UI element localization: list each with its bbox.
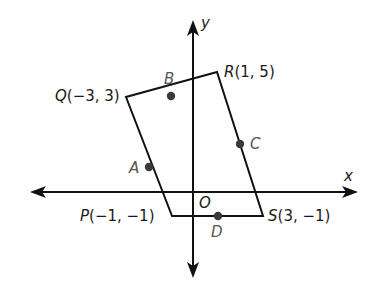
midpoint-b <box>167 92 175 100</box>
vertex-q-label: Q(−3, 3) <box>55 89 120 104</box>
midpoint-b-label: B <box>164 72 174 87</box>
vertex-p-label: P(−1, −1) <box>80 209 155 224</box>
vertex-q-coords: (−3, 3) <box>67 87 120 105</box>
diagram-graphic <box>0 0 374 296</box>
midpoint-d-label: D <box>211 225 223 240</box>
midpoint-c-label: C <box>250 137 260 152</box>
midpoint-a-label: A <box>129 161 139 176</box>
vertex-s-coords: (3, −1) <box>278 207 331 225</box>
origin-label: O <box>199 196 211 211</box>
x-axis-label: x <box>344 169 353 184</box>
coordinate-diagram: y x O Q(−3, 3) R(1, 5) P(−1, −1) S(3, −1… <box>0 0 374 296</box>
vertex-r-coords: (1, 5) <box>234 63 274 81</box>
midpoint-a <box>145 163 153 171</box>
vertex-s-label: S(3, −1) <box>268 209 330 224</box>
y-axis <box>187 20 199 278</box>
midpoint-c <box>236 140 244 148</box>
vertex-p-coords: (−1, −1) <box>89 207 154 225</box>
midpoint-d <box>214 212 222 220</box>
y-axis-label: y <box>201 16 210 31</box>
vertex-r-label: R(1, 5) <box>224 65 275 80</box>
